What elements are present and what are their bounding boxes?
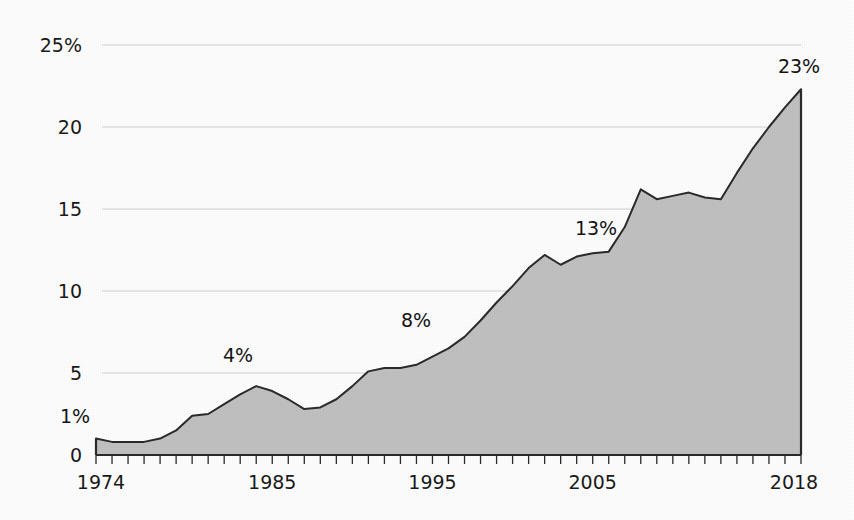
x-tick-label: 1985 — [248, 471, 296, 493]
annotation-label: 13% — [575, 217, 617, 239]
y-axis-labels: 25%20151050 — [40, 34, 82, 466]
y-tick-label: 5 — [70, 362, 82, 384]
chart-canvas: 25%20151050 19741985199520052018 1%4%8%1… — [0, 0, 854, 520]
area-chart: 25%20151050 19741985199520052018 1%4%8%1… — [0, 0, 854, 520]
annotation-label: 1% — [60, 405, 90, 427]
x-tick-label: 2018 — [770, 471, 818, 493]
x-axis-labels: 19741985199520052018 — [77, 471, 818, 493]
annotation-label: 23% — [778, 55, 820, 77]
x-tick-label: 2005 — [569, 471, 617, 493]
annotation-label: 4% — [223, 344, 253, 366]
y-tick-label: 20 — [58, 116, 82, 138]
y-tick-label: 15 — [58, 198, 82, 220]
y-tick-label: 10 — [58, 280, 82, 302]
x-tick-label: 1974 — [77, 471, 125, 493]
area-series — [96, 89, 801, 455]
x-tick-label: 1995 — [408, 471, 456, 493]
y-tick-label: 25% — [40, 34, 82, 56]
annotation-label: 8% — [401, 309, 431, 331]
y-tick-label: 0 — [70, 444, 82, 466]
area-fill-path — [96, 89, 801, 455]
